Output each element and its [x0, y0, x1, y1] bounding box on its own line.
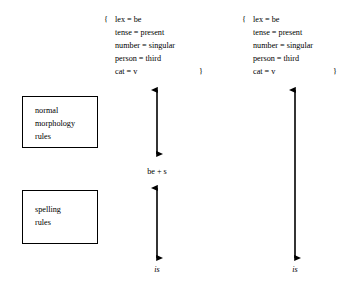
brace-open: {	[242, 13, 246, 26]
feature-cat: cat = v	[253, 65, 275, 78]
feature-person: person = third	[253, 52, 299, 65]
double-arrow-middle-upper	[148, 84, 166, 160]
diagram-canvas: { lex = be tense = present number = sing…	[0, 0, 357, 292]
feature-cat: cat = v	[115, 65, 137, 78]
label-intermediate-form: be + s	[147, 167, 167, 177]
label-surface-form-middle: is	[154, 265, 159, 275]
feature-person: person = third	[115, 52, 161, 65]
rule-box-line: normal	[35, 104, 97, 117]
feature-number: number = singular	[115, 39, 175, 52]
feature-lex: lex = be	[115, 13, 141, 26]
double-arrow-middle-lower	[148, 182, 166, 264]
brace-close: }	[333, 65, 337, 78]
rule-box-line: spelling	[35, 203, 97, 216]
feature-tense: tense = present	[253, 26, 302, 39]
rule-box-line: rules	[35, 130, 97, 143]
label-surface-form-right: is	[292, 265, 297, 275]
rule-box-spelling: spelling rules	[22, 190, 98, 244]
rule-box-line: morphology	[35, 117, 97, 130]
feature-tense: tense = present	[115, 26, 164, 39]
rule-box-line: rules	[35, 216, 97, 229]
brace-close: }	[199, 65, 203, 78]
feature-lex: lex = be	[253, 13, 279, 26]
double-arrow-right-full	[286, 84, 304, 264]
brace-open: {	[104, 13, 108, 26]
feature-number: number = singular	[253, 39, 313, 52]
rule-box-normal-morphology: normal morphology rules	[22, 96, 98, 148]
